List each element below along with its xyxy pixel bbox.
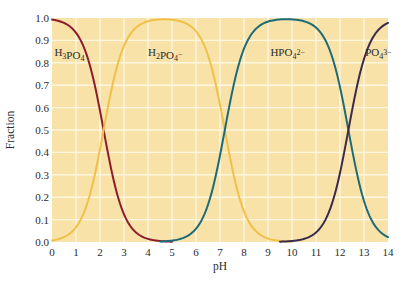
x-tick-label: 13 [359, 246, 371, 258]
x-tick-label: 3 [121, 246, 127, 258]
x-tick-label: 12 [335, 246, 346, 258]
x-tick-label: 1 [73, 246, 79, 258]
y-tick-label: 0.0 [35, 236, 49, 248]
x-tick-label: 6 [193, 246, 199, 258]
x-tick-label: 4 [145, 246, 151, 258]
x-tick-label: 14 [383, 246, 395, 258]
x-tick-label: 11 [311, 246, 322, 258]
y-tick-label: 0.4 [35, 146, 49, 158]
y-tick-label: 0.8 [35, 57, 49, 69]
y-tick-label: 0.3 [35, 169, 49, 181]
y-tick-label: 0.9 [35, 34, 49, 46]
x-tick-label: 10 [287, 246, 299, 258]
x-tick-label: 9 [265, 246, 271, 258]
y-axis-label: Fraction [4, 111, 16, 150]
y-axis-ticks: 0.00.10.20.30.40.50.60.70.80.91.0 [35, 12, 49, 248]
x-tick-label: 5 [169, 246, 175, 258]
y-tick-label: 0.2 [35, 191, 49, 203]
x-tick-label: 8 [241, 246, 247, 258]
y-tick-label: 0.1 [35, 214, 49, 226]
x-axis-ticks: 01234567891011121314 [49, 246, 394, 258]
x-axis-label: pH [213, 260, 227, 273]
y-tick-label: 0.5 [35, 124, 49, 136]
y-tick-label: 0.7 [35, 79, 49, 91]
phosphate-speciation-chart: H3PO4H2PO4−HPO42−PO43− 01234567891011121… [0, 0, 411, 284]
x-tick-label: 2 [97, 246, 103, 258]
x-tick-label: 7 [217, 246, 223, 258]
x-tick-label: 0 [49, 246, 55, 258]
y-tick-label: 1.0 [35, 12, 49, 24]
y-tick-label: 0.6 [35, 102, 49, 114]
